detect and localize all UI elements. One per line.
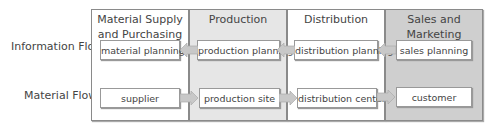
arrow-left-icon	[277, 43, 295, 57]
row-label-information-flow: Information Flow	[11, 40, 103, 53]
arrow-right-icon	[377, 90, 395, 104]
column-title: Material Supply and Purchasing	[92, 12, 188, 42]
box-distribution-planning: distribution planning	[294, 40, 378, 60]
column-title: Distribution	[288, 12, 384, 27]
column-title: Production	[190, 12, 286, 27]
box-production-site: production site	[199, 88, 280, 108]
box-customer: customer	[396, 87, 472, 107]
box-production-planning: production planning	[197, 40, 280, 60]
arrow-left-icon	[378, 43, 396, 57]
arrow-left-icon	[180, 43, 198, 57]
arrow-right-icon	[279, 91, 297, 105]
box-supplier: supplier	[100, 88, 180, 108]
box-sales-planning: sales planning	[396, 40, 472, 60]
arrow-right-icon	[180, 91, 198, 105]
box-distribution-center: distribution center	[297, 88, 377, 108]
column-title: Sales and Marketing	[386, 12, 482, 42]
box-material-planning: material planning	[100, 40, 180, 60]
row-label-material-flow: Material Flow	[24, 89, 97, 102]
